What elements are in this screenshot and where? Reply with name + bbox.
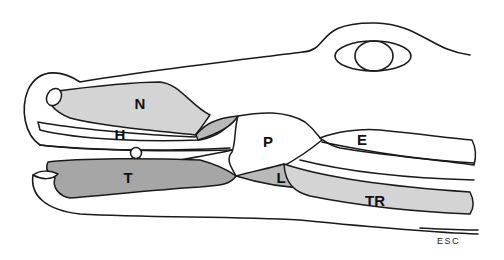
label-p: P bbox=[263, 134, 273, 149]
label-n: N bbox=[135, 96, 146, 111]
label-tr: TR bbox=[365, 193, 385, 208]
signature-line bbox=[420, 228, 478, 230]
label-l: L bbox=[276, 170, 285, 185]
region-e bbox=[320, 129, 475, 165]
tongue-tip-notch bbox=[33, 171, 58, 179]
crocodile-head-diagram bbox=[0, 0, 504, 260]
region-t bbox=[47, 159, 236, 198]
eye-orbit-outline bbox=[355, 41, 393, 71]
oral-marker-o bbox=[131, 148, 142, 159]
label-e: E bbox=[357, 132, 367, 147]
artist-signature: ESC bbox=[437, 237, 460, 246]
label-t: T bbox=[123, 170, 132, 185]
head-upper-outline bbox=[303, 23, 470, 55]
label-h: H bbox=[115, 127, 126, 142]
eye-socket-outline bbox=[335, 41, 411, 71]
